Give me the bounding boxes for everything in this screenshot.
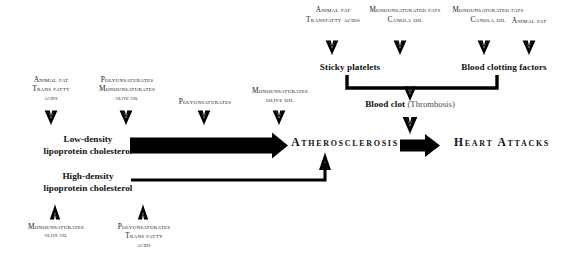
down-arrow-icon-mid-4 xyxy=(273,110,286,125)
down-arrow-icon-top-4 xyxy=(523,40,536,55)
hdl-connector-line xyxy=(131,163,325,180)
node-hdl-line2: lipoprotein cholesterol xyxy=(18,183,158,195)
source-label-bottom-2: Polyunsaturates Trans fatty acids xyxy=(94,222,194,249)
source-label-mid-4-line2: olive oil xyxy=(228,95,332,104)
oxidation-label-text: Oxidation xyxy=(203,139,269,149)
source-label-mid-2-line1: Polyunsaturates xyxy=(75,75,179,84)
up-arrow-icon-hdl-to-atherosclerosis xyxy=(319,152,331,170)
node-blood-clotting-factors: Blood clotting factors xyxy=(444,62,564,74)
down-arrow-icon-top-3 xyxy=(478,40,491,55)
node-sticky-platelets: Sticky platelets xyxy=(300,62,400,74)
node-ldl-line2: lipoprotein cholesterol xyxy=(18,146,158,158)
node-ldl-cholesterol: Low-density lipoprotein cholesterol xyxy=(18,134,158,158)
node-blood-clot-thrombosis: (Thrombosis) xyxy=(405,99,455,109)
node-atherosclerosis-label: Atherosclerosis xyxy=(291,136,399,149)
node-heart-attacks: Heart Attacks xyxy=(440,136,564,151)
node-ldl-line1: Low-density xyxy=(18,134,158,146)
source-label-top-3-line1: Monounsaturated fats xyxy=(428,6,548,15)
node-blood-clotting-factors-label: Blood clotting factors xyxy=(444,62,564,74)
source-label-top-4: Animal fat xyxy=(492,17,566,26)
source-label-bottom-1-line1: Monounsaturates xyxy=(4,222,108,231)
flow-diagram: Animal fat Transfatty acids Monounsatura… xyxy=(0,0,567,270)
down-arrow-icon-top-1 xyxy=(326,40,339,55)
source-label-mid-4-line1: Monounsaturates xyxy=(228,86,332,95)
source-label-bottom-2-line2: Trans fatty xyxy=(94,231,194,240)
down-arrow-icon-mid-3 xyxy=(198,110,211,125)
source-label-bottom-2-line3: acids xyxy=(94,241,194,249)
node-sticky-platelets-label: Sticky platelets xyxy=(300,62,400,74)
thick-block-arrow-icon-heart-attacks xyxy=(400,134,440,157)
up-arrow-icon-bottom-1 xyxy=(50,204,60,220)
up-arrow-icon-bottom-2 xyxy=(138,204,148,220)
oxidation-bar-label: Oxidation xyxy=(176,139,296,149)
down-arrow-icon-clot-to-chain xyxy=(403,117,418,134)
node-blood-clot-label: Blood clot xyxy=(365,99,405,109)
node-blood-clot: Blood clot (Thrombosis) xyxy=(340,99,480,111)
node-hdl-cholesterol: High-density lipoprotein cholesterol xyxy=(18,171,158,195)
source-label-bottom-1-line2: olive oil xyxy=(4,231,108,239)
source-label-mid-4: Monounsaturates olive oil xyxy=(228,86,332,105)
down-arrow-icon-mid-1 xyxy=(45,110,58,125)
bracket-connector-icon xyxy=(347,75,497,88)
down-arrow-icon-mid-2 xyxy=(120,110,133,125)
source-label-bottom-2-line1: Polyunsaturates xyxy=(94,222,194,231)
source-label-top-4-line1: Animal fat xyxy=(492,17,566,26)
node-heart-attacks-label: Heart Attacks xyxy=(454,136,550,149)
source-label-bottom-1: Monounsaturates olive oil xyxy=(4,222,108,240)
source-label-mid-2-line2: Monounsaturates xyxy=(75,84,179,93)
down-arrow-icon-top-2 xyxy=(394,40,407,55)
node-atherosclerosis: Atherosclerosis xyxy=(286,136,404,151)
node-hdl-line1: High-density xyxy=(18,171,158,183)
